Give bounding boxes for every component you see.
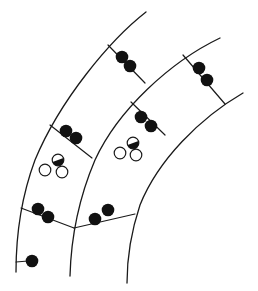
cluster-right: [114, 137, 142, 161]
filled-circle-icon: [32, 203, 45, 216]
open-circle-icon: [56, 166, 68, 178]
filled-circle-icon: [70, 132, 83, 145]
filled-circle-icon: [26, 255, 39, 268]
filled-circle-icon: [145, 120, 158, 133]
filled-circle-icon: [89, 213, 102, 226]
link-low-right: [74, 214, 135, 228]
filled-circle-icon: [102, 204, 115, 217]
filled-circle-icon: [135, 111, 148, 124]
open-circle-icon: [114, 147, 126, 159]
strand-crosslink-diagram: [0, 0, 258, 291]
open-circle-icon: [39, 164, 51, 176]
cluster-left: [39, 154, 68, 178]
open-circle-icon: [130, 149, 142, 161]
strand-outer: [16, 12, 146, 272]
filled-circle-icon: [124, 60, 137, 73]
filled-circle-icon: [201, 74, 214, 87]
filled-circle-icon: [193, 62, 206, 75]
filled-circle-icon: [42, 211, 55, 224]
